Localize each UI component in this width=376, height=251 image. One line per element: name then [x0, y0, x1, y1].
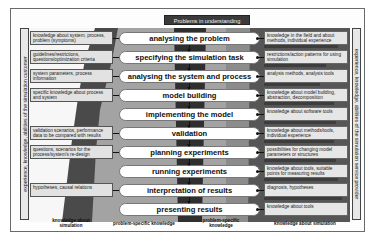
customer-input-1: guidelines/restrictions, questions/optim…: [30, 50, 113, 64]
provider-problem-knowledge-label: problem-specific knowledge: [196, 218, 246, 228]
step-implementing-model: implementing the model: [119, 108, 260, 121]
customer-label-box: experience, knowledge, abilities of the …: [20, 28, 29, 220]
provider-input-9: knowledge about tools: [264, 202, 348, 216]
customer-input-3: specific knowledge about process and sys…: [30, 88, 113, 102]
provider-bar: [264, 102, 334, 105]
provider-bar: [264, 83, 320, 86]
arrow-down-icon: [189, 159, 190, 164]
step-specifying-task: specifying the simulation task: [119, 51, 260, 64]
problems-title: Problems in understanding: [164, 15, 250, 25]
provider-input-6: possibilities for changing model paramet…: [264, 145, 348, 159]
provider-bar: [264, 140, 334, 143]
step-presenting-results: presenting results: [119, 203, 260, 216]
arrow-down-icon: [189, 102, 190, 107]
provider-input-4: knowledge about software tools: [264, 107, 348, 121]
provider-input-1: restrictions/action patterns for using s…: [264, 50, 348, 64]
provider-label: experience, knowledge, abilities of the …: [354, 49, 360, 200]
customer-input-0: knowledge about system, process, problem…: [30, 31, 113, 45]
provider-bar: [264, 159, 336, 162]
step-model-building: model building: [119, 89, 260, 102]
customer-label: experience, knowledge, abilities of the …: [22, 56, 28, 191]
customer-input-5: validation scenarios, performance data t…: [30, 126, 113, 140]
customer-sim-knowledge-label: knowledge about simulation: [46, 218, 96, 228]
arrow-down-icon: [189, 121, 190, 126]
provider-bar: [264, 64, 326, 67]
customer-problem-knowledge-label: problem-specific knowledge: [104, 221, 184, 226]
provider-input-0: knowledge in the field and about methods…: [264, 31, 348, 45]
step-analysing-problem: analysing the problem: [119, 32, 260, 45]
arrow-down-icon: [189, 83, 190, 88]
arrow-down-icon: [189, 178, 190, 183]
provider-input-2: analysis methods, analysis tools: [264, 69, 348, 83]
step-validation: validation: [119, 127, 260, 140]
provider-bar: [264, 121, 336, 124]
provider-bar: [264, 45, 338, 48]
step-interpretation: interpretation of results: [119, 184, 260, 197]
step-running-experiments: running experiments: [119, 165, 260, 178]
provider-input-7: knowledge about tools, suitable points f…: [264, 164, 348, 178]
provider-input-5: knowledge about methods/tools, individua…: [264, 126, 348, 140]
arrow-down-icon: [189, 197, 190, 202]
customer-input-2: system parameters, process information: [30, 69, 113, 83]
customer-input-6: questions, scenarios for the process/sys…: [30, 145, 113, 159]
provider-input-3: knowledge about model building, abstract…: [264, 88, 348, 102]
arrow-down-icon: [189, 45, 190, 50]
provider-input-8: diagnosis, hypotheses: [264, 183, 348, 197]
arrow-down-icon: [189, 140, 190, 145]
arrow-down-icon: [189, 64, 190, 69]
step-planning-experiments: planning experiments: [119, 146, 260, 159]
step-analysing-system: analysing the system and process: [119, 70, 260, 83]
customer-input-8: hypotheses, causal relations: [30, 183, 113, 197]
provider-sim-knowledge-label: knowledge about simulation: [262, 221, 348, 226]
provider-label-box: experience, knowledge, abilities of the …: [352, 28, 361, 220]
provider-bar: [264, 178, 338, 181]
provider-bar: [264, 197, 342, 200]
